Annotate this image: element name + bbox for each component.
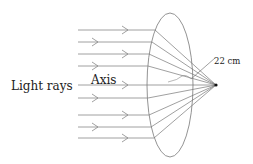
refracted-rays bbox=[147, 30, 216, 138]
lens-diagram: Light rays Axis 22 cm bbox=[0, 0, 253, 164]
axis-label: Axis bbox=[90, 73, 116, 87]
light-rays-label: Light rays bbox=[11, 79, 73, 93]
axis-squiggle bbox=[168, 75, 191, 82]
incoming-rays bbox=[78, 30, 155, 138]
focal-point bbox=[214, 83, 217, 86]
focal-length-label: 22 cm bbox=[214, 56, 240, 66]
